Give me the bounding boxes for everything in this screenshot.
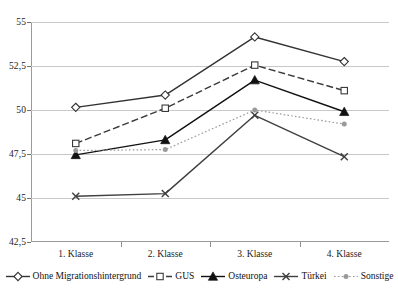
series-sonstige <box>73 108 347 153</box>
y-axis-tick-label: 47,5 <box>9 149 26 159</box>
legend-item[interactable]: Osteuropa <box>200 271 267 282</box>
data-point-marker <box>162 105 168 111</box>
y-axis-tick-label: 45 <box>16 193 26 203</box>
data-point-marker <box>340 58 348 66</box>
legend-marker-cross-icon <box>273 271 299 282</box>
series-osteuropa <box>71 75 349 158</box>
series-layer <box>31 22 389 242</box>
x-axis-category-label: 3. Klasse <box>237 249 272 260</box>
legend-marker-filled-triangle-icon <box>200 271 226 282</box>
legend-marker-open-square-icon <box>147 271 173 282</box>
series-line <box>76 110 345 150</box>
legend-marker <box>157 273 163 279</box>
x-axis-category-label: 2. Klasse <box>148 249 183 260</box>
legend-label: Ohne Migrationshintergrund <box>33 271 142 282</box>
data-point-marker <box>342 122 347 127</box>
series-gus <box>73 62 348 147</box>
x-axis-category-label: 4. Klasse <box>327 249 362 260</box>
x-tick-mark <box>300 242 301 247</box>
data-point-marker <box>252 108 257 113</box>
y-axis-tick-label: 50 <box>16 105 26 115</box>
data-point-marker <box>251 33 259 41</box>
x-axis-category-label: 1. Klasse <box>58 249 93 260</box>
data-point-marker <box>341 87 347 93</box>
y-axis-tick-label: 42,5 <box>9 237 26 247</box>
data-point-marker <box>73 140 79 146</box>
legend-label: GUS <box>175 271 194 282</box>
y-axis-tick-label: 52,5 <box>9 61 26 71</box>
data-point-marker <box>72 103 80 111</box>
legend-label: Osteuropa <box>228 271 267 282</box>
legend-marker <box>343 274 348 279</box>
series-line <box>76 65 345 143</box>
series-ohne-migrationshintergrund <box>72 33 349 112</box>
y-tick-mark <box>27 242 31 243</box>
data-point-marker <box>251 112 258 119</box>
data-point-marker <box>250 75 259 83</box>
legend-marker-diamond-icon <box>5 271 31 282</box>
legend-item[interactable]: Ohne Migrationshintergrund <box>5 271 142 282</box>
legend-item[interactable]: GUS <box>147 271 194 282</box>
data-point-marker <box>341 153 348 160</box>
data-point-marker <box>161 135 170 143</box>
data-point-marker <box>163 147 168 152</box>
legend-item[interactable]: Türkei <box>273 271 326 282</box>
series-t-rkei <box>72 112 348 200</box>
data-point-marker <box>161 91 169 99</box>
legend-label: Türkei <box>301 271 326 282</box>
data-point-marker <box>73 148 78 153</box>
x-tick-mark <box>121 242 122 247</box>
legend-marker-dot-icon <box>333 271 359 282</box>
chart-legend: Ohne MigrationshintergrundGUSOsteuropaTü… <box>0 266 398 286</box>
line-chart: 42,54547,55052,555 1. Klasse2. Klasse3. … <box>0 0 398 290</box>
data-point-marker <box>252 62 258 68</box>
y-axis-tick-label: 55 <box>16 17 26 27</box>
plot-area <box>31 22 389 242</box>
x-tick-mark <box>210 242 211 247</box>
legend-item[interactable]: Sonstige <box>333 271 394 282</box>
legend-marker <box>13 272 21 280</box>
legend-label: Sonstige <box>361 271 394 282</box>
